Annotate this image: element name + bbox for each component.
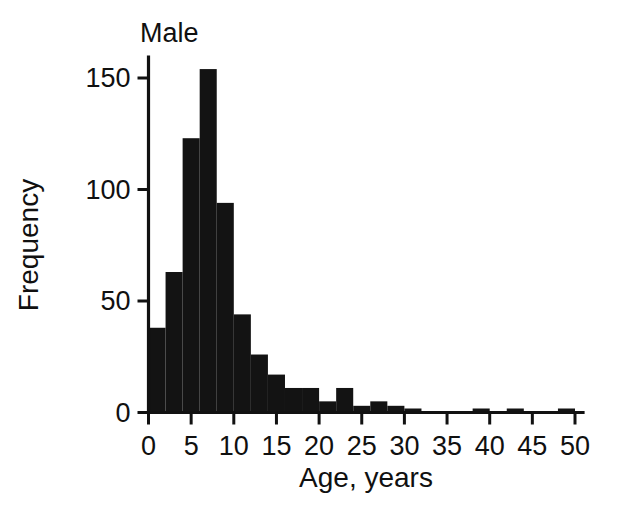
histogram-bar (285, 388, 302, 413)
page-title: Male (140, 18, 199, 48)
histogram-bar (149, 328, 166, 413)
y-axis-tick-label: 150 (85, 63, 130, 93)
histogram-bar (302, 388, 319, 413)
histogram-bar (200, 69, 217, 412)
x-axis-tick-label: 30 (389, 431, 419, 461)
histogram-bar (319, 401, 336, 412)
histogram-figure: Male 050100150 05101520253035404550 Age,… (0, 0, 620, 509)
histogram-bar (166, 272, 183, 412)
histogram-bar (217, 203, 234, 413)
x-axis-tick-label: 20 (304, 431, 334, 461)
y-axis-tick-label: 100 (85, 175, 130, 205)
y-axis-tick-label: 0 (115, 398, 130, 428)
x-axis-tick-label: 0 (141, 431, 156, 461)
x-axis-tick-label: 45 (517, 431, 547, 461)
y-axis-title: Frequency (13, 179, 44, 311)
x-axis-tick-label: 15 (261, 431, 291, 461)
x-axis-tick-label: 50 (560, 431, 590, 461)
y-axis-tick-label: 50 (100, 286, 130, 316)
histogram-bar (268, 375, 285, 413)
histogram-bar (370, 401, 387, 412)
histogram-bar (183, 138, 200, 412)
x-axis-tick-label: 10 (219, 431, 249, 461)
x-axis-title: Age, years (299, 462, 433, 493)
histogram-bar (336, 388, 353, 413)
histogram-bar (251, 355, 268, 413)
x-axis-tick-label: 25 (347, 431, 377, 461)
x-axis-tick-label: 5 (184, 431, 199, 461)
x-axis-tick-label: 40 (475, 431, 505, 461)
x-axis-tick-label: 35 (432, 431, 462, 461)
histogram-bar (234, 314, 251, 412)
